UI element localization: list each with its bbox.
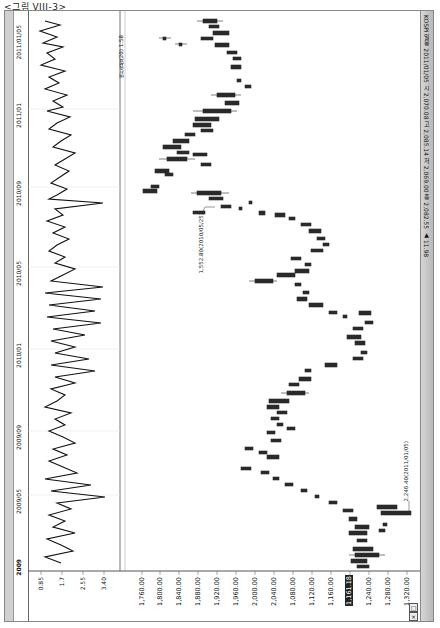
maximize-button[interactable]: □ [409,603,418,612]
low-annotation: 2,246.40(2011/01/05) [403,441,409,501]
price-tick: 1,080.00 [289,577,297,606]
price-tick: 1,120.00 [308,577,316,606]
price-tick: 2,000.00 [251,577,259,606]
window-title-text: KOSPI 일봉 [423,15,430,46]
window-titlebar: KOSPI 일봉 2011/01/05 시 2,070.08 고 2,085.1… [420,11,433,621]
price-tick: 1,920.00 [213,577,221,606]
price-tick: 1,240.00 [365,577,373,606]
price-tick: 1,880.00 [194,577,202,606]
price-tick: 1,320.00 [403,577,411,606]
close-button[interactable]: × [409,612,418,621]
chart-window: 2011/01/05 2011/01 2010/09 2010/05 2010/… [4,10,434,622]
price-tick: 1,840.00 [175,577,183,606]
window-price-info: 2011/01/05 시 2,070.08 고 2,085.14 저 2,069… [423,48,430,257]
current-price-marker: 1,161.18 [345,575,353,606]
high-annotation: 1,552.80(2010/05/25) [198,213,204,273]
volatility-tick: 2.55 [79,577,86,590]
price-tick: 1,160.00 [327,577,335,606]
price-tick: 2,040.00 [270,577,278,606]
price-tick: 1,280.00 [384,577,392,606]
price-tick: 1,800.00 [156,577,164,606]
price-tick: 1,960.00 [232,577,240,606]
window-title: KOSPI 일봉 2011/01/05 시 2,070.08 고 2,085.1… [422,15,431,257]
chart-canvas [5,11,435,623]
volatility-tick: 0.85 [37,577,44,590]
volatility-pane-title: 변동성(20) 1.58 [117,35,125,78]
volatility-tick: 1.7 [58,577,65,587]
price-tick: 1,760.00 [138,577,146,606]
volatility-tick: 3.40 [100,577,107,590]
